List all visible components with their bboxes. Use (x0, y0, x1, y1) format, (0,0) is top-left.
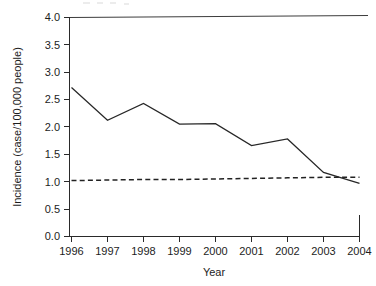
y-axis-ticks (64, 17, 70, 236)
y-tick-label: 3.0 (45, 66, 60, 78)
chart-figure: 0.0 0.5 1.0 1.5 2.0 2.5 3.0 3.5 4.0 1996… (0, 0, 376, 286)
x-axis-ticks (72, 237, 360, 243)
x-tick-label: 1996 (59, 245, 83, 257)
plot-frame (69, 16, 368, 238)
y-tick-label: 3.5 (45, 39, 60, 51)
y-tick-label: 2.5 (45, 93, 60, 105)
x-axis-title: Year (203, 266, 226, 278)
incidence-data-line (72, 87, 360, 183)
incidence-line-chart: 0.0 0.5 1.0 1.5 2.0 2.5 3.0 3.5 4.0 1996… (0, 0, 376, 286)
x-tick-label: 1999 (167, 245, 191, 257)
x-tick-label: 2003 (311, 245, 335, 257)
x-tick-label: 2004 (347, 245, 371, 257)
y-tick-label: 0.0 (45, 230, 60, 242)
x-axis-tick-labels: 1996 1997 1998 1999 2000 2001 2002 2003 … (59, 245, 371, 257)
y-tick-label: 1.0 (45, 176, 60, 188)
y-tick-label: 1.5 (45, 148, 60, 160)
y-axis-tick-labels: 0.0 0.5 1.0 1.5 2.0 2.5 3.0 3.5 4.0 (45, 11, 60, 242)
scan-artifacts (83, 2, 129, 5)
y-axis-title: Incidence (case/100,000 people) (11, 47, 23, 207)
x-tick-label: 2000 (203, 245, 227, 257)
y-tick-label: 0.5 (45, 203, 60, 215)
x-tick-label: 2001 (239, 245, 263, 257)
reference-level-line (72, 177, 360, 180)
y-tick-label: 4.0 (45, 11, 60, 23)
x-tick-label: 1997 (95, 245, 119, 257)
x-tick-label: 1998 (131, 245, 155, 257)
x-tick-label: 2002 (275, 245, 299, 257)
y-tick-label: 2.0 (45, 121, 60, 133)
